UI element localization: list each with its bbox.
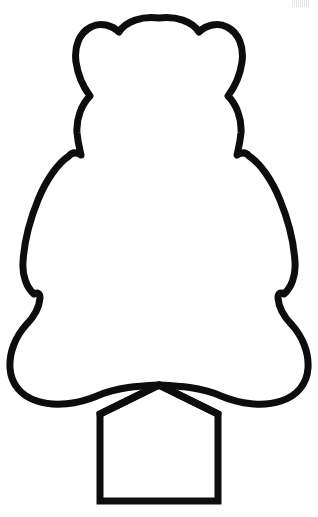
bear-outline-artwork bbox=[0, 0, 318, 517]
coloring-page-canvas bbox=[0, 0, 318, 517]
